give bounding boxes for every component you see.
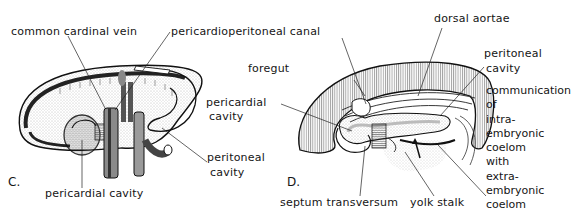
- label-peritoneal-cavity-d-line1: peritoneal: [484, 48, 542, 60]
- label-communication-of-coelom: communication of intra- embryonic coelom…: [486, 84, 571, 213]
- communication-line-3: intra-: [486, 113, 571, 127]
- label-peritoneal-cavity-c-line2: cavity: [210, 167, 244, 179]
- communication-line-2: of: [486, 98, 571, 112]
- label-peritoneal-cavity-c-line1: peritoneal: [207, 152, 265, 164]
- label-yolk-stalk: yolk stalk: [410, 197, 464, 209]
- label-peritoneal-cavity-d-line2: cavity: [486, 63, 520, 75]
- label-common-cardinal-vein: common cardinal vein: [11, 26, 137, 38]
- label-pericardial-cavity-d-line2: cavity: [209, 111, 243, 123]
- label-pericardial-cavity-c: pericardial cavity: [45, 188, 144, 200]
- label-pericardial-cavity-d-line1: pericardial: [206, 97, 266, 109]
- communication-line-6: with: [486, 155, 571, 169]
- label-septum-transversum: septum transversum: [280, 197, 398, 209]
- panel-letter-d: D.: [287, 175, 300, 189]
- label-foregut: foregut: [248, 63, 289, 75]
- panel-letter-c: C.: [8, 175, 20, 189]
- communication-line-8: embryonic: [486, 184, 571, 198]
- panel-d-drawing: [299, 62, 494, 171]
- communication-line-9: coelom: [486, 198, 571, 212]
- communication-line-7: extra-: [486, 170, 571, 184]
- label-dorsal-aortae: dorsal aortae: [434, 13, 510, 25]
- label-pericardioperitoneal-canal: pericardioperitoneal canal: [171, 26, 320, 38]
- communication-line-5: coelom: [486, 141, 571, 155]
- communication-line-4: embryonic: [486, 127, 571, 141]
- communication-line-1: communication: [486, 84, 571, 98]
- panel-c-drawing: [19, 65, 202, 178]
